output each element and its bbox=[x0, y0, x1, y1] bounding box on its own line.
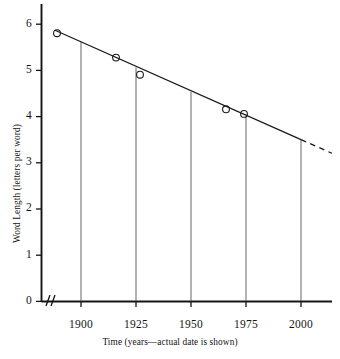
x-tick-label-1900: 1900 bbox=[58, 318, 104, 330]
axis-break-marks bbox=[46, 295, 55, 306]
trend-line-dashed bbox=[301, 140, 332, 154]
word-length-chart: 6 5 4 3 2 1 0 1900 1925 1950 1975 2000 T… bbox=[0, 0, 340, 359]
x-axis-title: Time (years—actual date is shown) bbox=[0, 337, 340, 347]
y-tick-label-4: 4 bbox=[10, 109, 32, 121]
x-tick-label-1950: 1950 bbox=[168, 318, 214, 330]
trend-line-solid bbox=[55, 30, 301, 139]
dropline-group bbox=[81, 42, 301, 302]
y-axis-title: Word Length (letters per word) bbox=[12, 124, 22, 243]
x-tick-label-2000: 2000 bbox=[278, 318, 324, 330]
y-tick-label-0: 0 bbox=[10, 294, 32, 306]
y-tick-label-5: 5 bbox=[10, 63, 32, 75]
x-tick-label-1925: 1925 bbox=[113, 318, 159, 330]
chart-canvas bbox=[0, 0, 340, 359]
x-tick-label-1975: 1975 bbox=[223, 318, 269, 330]
y-tick-label-1: 1 bbox=[10, 248, 32, 260]
data-point bbox=[137, 71, 144, 78]
y-tick-label-6: 6 bbox=[10, 17, 32, 29]
